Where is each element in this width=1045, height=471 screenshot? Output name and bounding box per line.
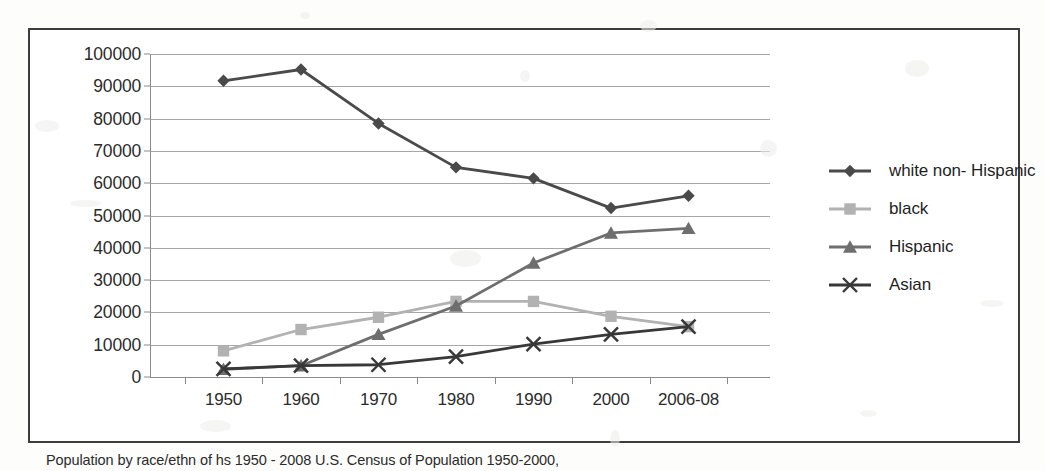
y-axis-tick-label: 10000 bbox=[93, 334, 141, 355]
y-axis-tick-label: 60000 bbox=[93, 173, 141, 194]
x-axis-tick-label: 1960 bbox=[282, 390, 319, 410]
legend-item[interactable]: black bbox=[828, 190, 1028, 228]
x-axis-tick-label: 2006-08 bbox=[658, 390, 719, 410]
x-axis-tick-mark bbox=[572, 377, 573, 384]
square-marker-icon bbox=[295, 324, 306, 335]
y-axis-tick-label: 100000 bbox=[84, 44, 141, 65]
diamond-marker-icon bbox=[450, 161, 462, 173]
x-axis-tick-mark bbox=[340, 377, 341, 384]
legend-item[interactable]: white non- Hispanic bbox=[828, 152, 1028, 190]
diamond-marker-icon bbox=[527, 172, 539, 184]
y-axis-tick-label: 90000 bbox=[93, 76, 141, 97]
chart-legend: white non- HispanicblackHispanicAsian bbox=[828, 152, 1028, 304]
x-axis-tick-label: 2000 bbox=[592, 390, 629, 410]
square-marker-icon bbox=[605, 311, 616, 322]
x-axis-tick-mark bbox=[185, 377, 186, 384]
x-axis-tick-label: 1970 bbox=[360, 390, 397, 410]
series-line bbox=[224, 70, 689, 209]
series-plot-svg bbox=[150, 54, 770, 377]
series-group bbox=[217, 63, 694, 214]
x-axis-tick-label: 1990 bbox=[515, 390, 552, 410]
square-marker-icon bbox=[218, 345, 229, 356]
y-axis-tick-label: 0 bbox=[131, 367, 141, 388]
x-axis-tick-label: 1950 bbox=[205, 390, 242, 410]
x-axis-tick-mark bbox=[417, 377, 418, 384]
square-marker-icon bbox=[844, 203, 855, 214]
gridline bbox=[150, 377, 770, 378]
figure-caption: Population by race/ethn of hs 1950 - 200… bbox=[46, 452, 559, 468]
series-group bbox=[217, 320, 696, 376]
legend-item[interactable]: Asian bbox=[828, 266, 1028, 304]
y-axis-tick-label: 30000 bbox=[93, 270, 141, 291]
legend-swatch bbox=[828, 236, 872, 258]
legend-label: black bbox=[889, 199, 928, 219]
legend-label: Asian bbox=[889, 275, 931, 295]
square-marker-icon bbox=[373, 312, 384, 323]
y-axis-tick-label: 50000 bbox=[93, 205, 141, 226]
legend-swatch bbox=[828, 274, 872, 296]
x-axis-tick-mark bbox=[495, 377, 496, 384]
figure-container: 1000009000080000700006000050000400003000… bbox=[0, 0, 1045, 471]
y-axis-tick-label: 40000 bbox=[93, 237, 141, 258]
x-axis-tick-mark bbox=[727, 377, 728, 384]
y-axis-tick-label: 70000 bbox=[93, 140, 141, 161]
y-axis-tick-label: 80000 bbox=[93, 108, 141, 129]
legend-label: Hispanic bbox=[889, 237, 953, 257]
plot-area: 1000009000080000700006000050000400003000… bbox=[150, 54, 770, 377]
legend-item[interactable]: Hispanic bbox=[828, 228, 1028, 266]
x-axis-tick-mark bbox=[650, 377, 651, 384]
diamond-marker-icon bbox=[605, 202, 617, 214]
x-axis-tick-mark bbox=[262, 377, 263, 384]
diamond-marker-icon bbox=[682, 190, 694, 202]
scan-artifact bbox=[300, 12, 310, 19]
y-axis-tick-label: 20000 bbox=[93, 302, 141, 323]
diamond-marker-icon bbox=[844, 165, 856, 177]
diamond-marker-icon bbox=[217, 75, 229, 87]
legend-swatch bbox=[828, 160, 872, 182]
legend-swatch bbox=[828, 198, 872, 220]
square-marker-icon bbox=[528, 296, 539, 307]
x-axis-tick-label: 1980 bbox=[437, 390, 474, 410]
legend-label: white non- Hispanic bbox=[889, 161, 1035, 181]
